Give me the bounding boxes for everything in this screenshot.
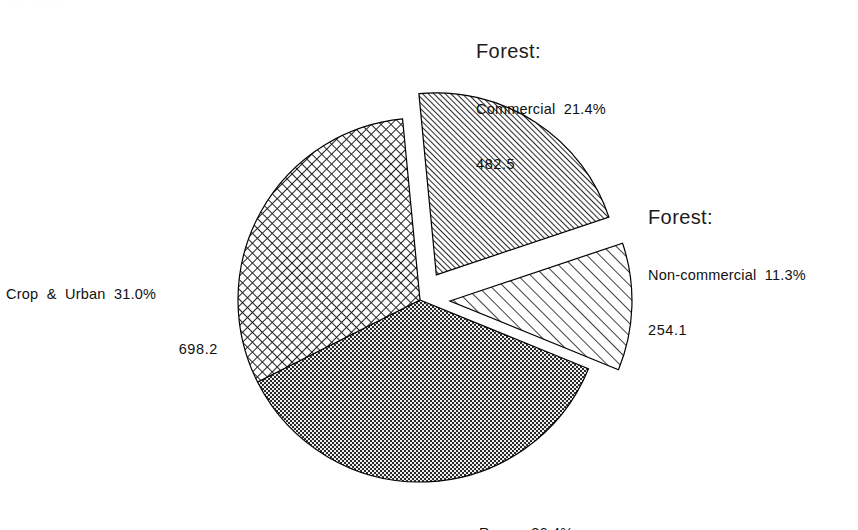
slice-label-value: 698.2 [6, 341, 218, 358]
slice-label-forest-noncommercial: Forest: Non-commercial 11.3% 254.1 [648, 168, 806, 377]
slice-label-name-percent: Crop & Urban 31.0% [6, 286, 218, 303]
slice-label-name-percent: Range 36.4% [479, 525, 573, 530]
slice-label-range: Range 36.4% 820 [479, 487, 573, 530]
slice-label-forest-commercial: Forest: Commercial 21.4% 482.5 [476, 2, 606, 211]
chart-canvas: - - - - - - [0, 0, 858, 530]
slice-label-crop-urban: Crop & Urban 31.0% 698.2 [6, 248, 218, 395]
slice-label-head: Forest: [648, 206, 806, 230]
slice-label-name-percent: Non-commercial 11.3% [648, 267, 806, 284]
slice-label-name-percent: Commercial 21.4% [476, 101, 606, 118]
slice-label-value: 482.5 [476, 156, 606, 173]
slice-label-head: Forest: [476, 40, 606, 64]
slice-label-value: 254.1 [648, 322, 806, 339]
